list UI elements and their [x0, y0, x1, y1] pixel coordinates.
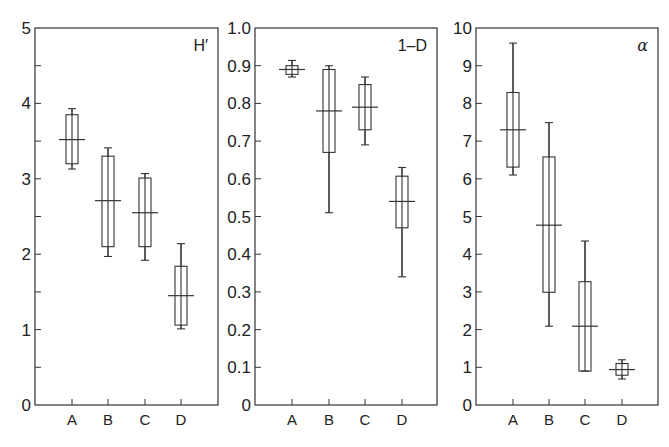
- y-tick-label: 0.4: [227, 245, 251, 264]
- box-d: [609, 360, 635, 379]
- y-tick-label: 0.8: [227, 94, 251, 113]
- panel-1: 012345ABCDH′: [22, 19, 218, 428]
- box-d: [389, 167, 415, 276]
- y-tick-label: 4: [22, 94, 31, 113]
- panel-label: 1–D: [398, 37, 427, 54]
- panel-2: 00.10.20.30.40.50.60.70.80.91.0ABCD1–D: [227, 19, 437, 428]
- chart-canvas: 012345ABCDH′00.10.20.30.40.50.60.70.80.9…: [0, 0, 669, 447]
- y-tick-label: 0: [242, 396, 251, 415]
- box-c: [572, 241, 598, 371]
- y-tick-label: 1: [22, 321, 31, 340]
- y-tick-label: 0.1: [227, 358, 251, 377]
- x-tick-label-c: C: [580, 411, 591, 428]
- y-tick-label: 9: [463, 57, 472, 76]
- y-tick-label: 5: [22, 19, 31, 38]
- x-tick-label-a: A: [67, 411, 77, 428]
- y-tick-label: 0.6: [227, 170, 251, 189]
- x-tick-label-d: D: [617, 411, 628, 428]
- y-tick-label: 8: [463, 94, 472, 113]
- box-c: [132, 174, 158, 261]
- box-plot-figure: 012345ABCDH′00.10.20.30.40.50.60.70.80.9…: [0, 0, 669, 447]
- x-tick-label-a: A: [508, 411, 518, 428]
- y-tick-label: 0: [463, 396, 472, 415]
- y-tick-label: 0.9: [227, 57, 251, 76]
- panel-label: H′: [193, 37, 208, 54]
- y-tick-label: 7: [463, 132, 472, 151]
- x-tick-label-b: B: [103, 411, 113, 428]
- y-tick-label: 5: [463, 208, 472, 227]
- x-tick-label-b: B: [324, 411, 334, 428]
- plot-frame: [255, 28, 437, 405]
- y-tick-label: 6: [463, 170, 472, 189]
- panel-label: α: [637, 36, 648, 55]
- y-tick-label: 1.0: [227, 19, 251, 38]
- y-tick-label: 2: [463, 321, 472, 340]
- y-tick-label: 0.5: [227, 208, 251, 227]
- y-tick-label: 0.3: [227, 283, 251, 302]
- y-tick-label: 0.7: [227, 132, 251, 151]
- y-tick-label: 10: [453, 19, 472, 38]
- x-tick-label-c: C: [360, 411, 371, 428]
- y-tick-label: 1: [463, 358, 472, 377]
- y-tick-label: 0: [22, 396, 31, 415]
- box-a: [279, 60, 305, 77]
- box-b: [536, 123, 562, 327]
- plot-frame: [35, 28, 218, 405]
- box-b: [95, 148, 121, 257]
- box-d: [168, 244, 194, 329]
- y-tick-label: 3: [22, 170, 31, 189]
- y-tick-label: 2: [22, 245, 31, 264]
- box-c: [352, 77, 378, 145]
- box-a: [500, 43, 526, 175]
- x-tick-label-a: A: [287, 411, 297, 428]
- x-tick-label-d: D: [397, 411, 408, 428]
- box-a: [59, 109, 85, 169]
- panel-3: 012345678910ABCDα: [453, 19, 658, 428]
- plot-frame: [476, 28, 658, 405]
- x-tick-label-d: D: [176, 411, 187, 428]
- y-tick-label: 4: [463, 245, 472, 264]
- x-tick-label-c: C: [140, 411, 151, 428]
- x-tick-label-b: B: [544, 411, 554, 428]
- y-tick-label: 3: [463, 283, 472, 302]
- y-tick-label: 0.2: [227, 321, 251, 340]
- box-b: [316, 66, 342, 213]
